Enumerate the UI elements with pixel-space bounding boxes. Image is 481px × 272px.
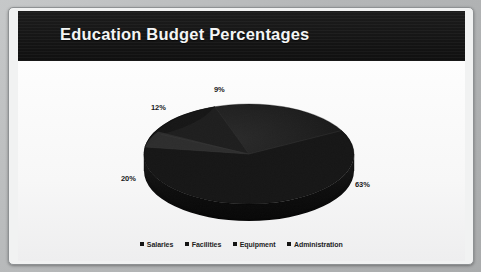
screen-backdrop: Education Budget Percentages <box>0 0 481 272</box>
legend-item-label: Administration <box>294 241 343 248</box>
pie-chart-graphic <box>18 61 465 231</box>
legend-swatch-icon <box>185 242 189 246</box>
legend-swatch-icon <box>140 242 144 246</box>
legend-item-label: Equipment <box>240 241 276 248</box>
legend-swatch-icon <box>287 242 291 246</box>
pie-label-equipment: 12% <box>151 103 166 112</box>
chart-plot-area: 9% 12% 20% 63% Salaries Facilities Equip <box>18 61 465 261</box>
legend-item-facilities[interactable]: Facilities <box>185 241 221 248</box>
pie-chart: 9% 12% 20% 63% <box>18 61 465 231</box>
legend-item-equipment[interactable]: Equipment <box>233 241 275 248</box>
page-title: Education Budget Percentages <box>60 25 309 44</box>
chart-legend: Salaries Facilities Equipment Administra… <box>18 231 465 257</box>
slide-card: Education Budget Percentages <box>8 7 474 265</box>
pie-label-facilities: 20% <box>121 174 136 183</box>
legend-item-salaries[interactable]: Salaries <box>140 241 173 248</box>
pie-label-administration: 9% <box>214 85 225 94</box>
legend-swatch-icon <box>233 242 237 246</box>
pie-label-salaries: 63% <box>355 180 370 189</box>
legend-item-label: Salaries <box>147 241 173 248</box>
legend-item-administration[interactable]: Administration <box>287 241 342 248</box>
title-band: Education Budget Percentages <box>18 11 465 61</box>
legend-item-label: Facilities <box>192 241 221 248</box>
